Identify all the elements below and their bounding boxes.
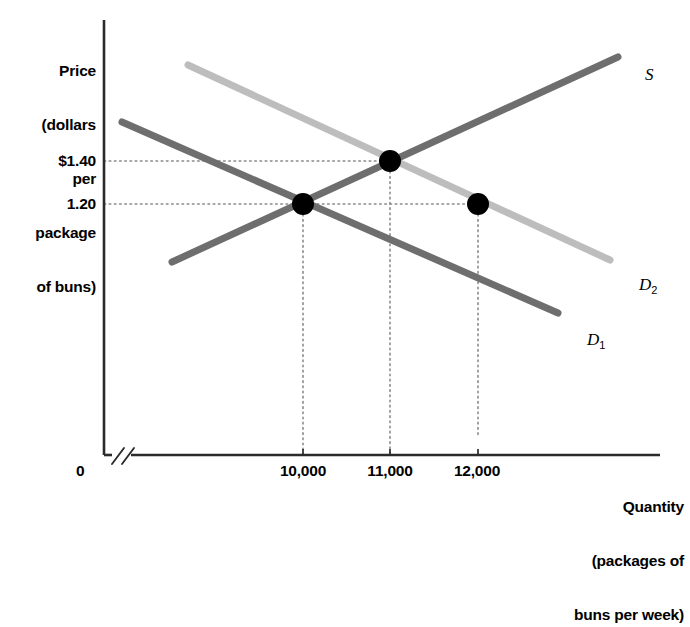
curve-label-demand-1-text: D	[587, 330, 599, 349]
y-axis-title-line-2: (dollars	[8, 116, 96, 134]
curve-label-demand-2-subscript: 2	[651, 284, 657, 296]
y-axis-title-line-3: per	[8, 170, 96, 188]
y-tick-label-140: $1.40	[18, 152, 96, 170]
x-tick-label-11000: 11,000	[345, 462, 435, 480]
axis-break-icon	[112, 448, 134, 464]
curve-label-supply-text: S	[645, 65, 654, 84]
y-tick-label-120: 1.20	[18, 195, 96, 213]
x-axis-title-line-1: Quantity	[498, 498, 684, 516]
point-original-equilibrium	[292, 193, 314, 215]
y-axis-title: Price (dollars per package of buns)	[8, 26, 96, 331]
curve-label-supply: S	[628, 45, 654, 104]
demand-curve-d1	[122, 122, 558, 313]
curves	[122, 57, 618, 313]
x-axis-title: Quantity (packages of buns per week)	[498, 462, 684, 627]
origin-label: 0	[76, 462, 85, 480]
curve-label-demand-1-subscript: 1	[599, 339, 605, 351]
y-axis-title-line-4: package	[8, 224, 96, 242]
point-quantity-demanded-12000	[467, 193, 489, 215]
curve-label-demand-1: D1	[570, 310, 605, 372]
curve-label-demand-2: D2	[622, 255, 657, 317]
y-axis-title-line-5: of buns)	[8, 278, 96, 296]
x-axis-title-line-3: buns per week)	[498, 606, 684, 624]
curve-label-demand-2-text: D	[639, 275, 651, 294]
x-tick-label-10000: 10,000	[258, 462, 348, 480]
x-axis-title-line-2: (packages of	[498, 552, 684, 570]
point-new-equilibrium	[379, 150, 401, 172]
y-axis-title-line-1: Price	[8, 62, 96, 80]
